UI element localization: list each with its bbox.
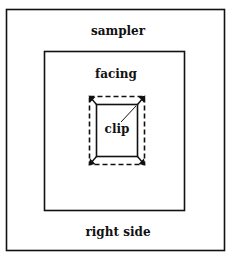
sampler-diagram: sampler facing clip right side <box>0 0 237 260</box>
clip-leader-line <box>121 106 136 122</box>
facing-label: facing <box>95 67 137 81</box>
clip-label: clip <box>105 122 130 136</box>
sampler-label: sampler <box>91 24 145 38</box>
right-side-label: right side <box>85 225 150 239</box>
